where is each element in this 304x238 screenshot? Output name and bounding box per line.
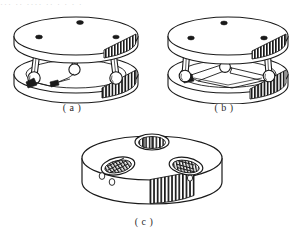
clipped-text-line: ··· ·· ···· ·· · · · · [0,0,304,9]
mounting-hole [188,36,195,40]
mounting-hole [261,36,268,40]
mounting-hole [221,21,228,25]
figure-c-drawing [74,122,230,214]
slot-pocket [135,134,169,150]
figure-b-drawing [158,12,298,104]
mounting-hole [77,21,84,25]
mounting-hole [113,35,119,39]
figure-page: ··· ·· ···· ·· · · · · [0,0,304,238]
figure-a [6,12,146,104]
figure-c [74,122,230,214]
figure-a-drawing [6,12,146,104]
figure-b [158,12,298,104]
mounting-hole [36,35,43,39]
side-hole [109,179,115,186]
figure-c-caption: ( c ) [114,216,174,227]
figure-b-caption: ( b ) [194,102,254,113]
side-hole [187,175,192,181]
figure-a-caption: ( a ) [42,102,102,113]
